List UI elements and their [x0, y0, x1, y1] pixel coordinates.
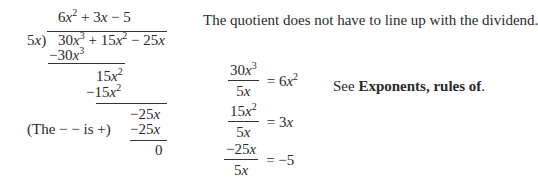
subtract-line-3 — [130, 140, 167, 141]
term: −15x — [86, 84, 116, 100]
exponent: 3 — [80, 30, 85, 41]
equals-result: = 3x — [267, 114, 293, 131]
exponent: 2 — [118, 66, 123, 77]
term: 30x — [230, 62, 252, 78]
numerator: 30x3 — [228, 63, 259, 81]
dividend-term: 30x — [58, 32, 80, 48]
equals-result: = 6x2 — [267, 73, 298, 90]
reference-suffix: . — [481, 78, 485, 94]
remainder-step-2: −25x — [130, 107, 160, 122]
exponent: 3 — [79, 45, 84, 56]
term: 15x — [96, 68, 118, 84]
denominator: 5x — [236, 122, 250, 140]
denominator: 5x — [236, 81, 250, 99]
quotient-term: 6x — [58, 9, 72, 25]
subtract-step-1: −30x3 — [49, 48, 84, 63]
fraction-row-3: −25x 5x = −5 — [224, 142, 294, 178]
numerator: 15x2 — [228, 104, 259, 122]
result: 6x — [279, 73, 293, 89]
fraction: 30x3 5x — [228, 63, 259, 99]
reference-link[interactable]: Exponents, rules of — [358, 78, 481, 94]
term: 15x — [230, 103, 252, 119]
final-remainder: 0 — [155, 143, 163, 158]
fraction-row-1: 30x3 5x = 6x2 — [228, 63, 298, 99]
dividend-term: − 25x — [127, 32, 165, 48]
reference-prefix: See — [333, 78, 358, 94]
quotient: 6x2 + 3x − 5 — [58, 10, 131, 25]
term: −30x — [49, 47, 79, 63]
result: 3x — [279, 114, 293, 130]
subtract-line-1 — [48, 63, 125, 64]
subtract-line-2 — [96, 103, 167, 104]
exponent: 2 — [116, 82, 121, 93]
fraction-row-2: 15x2 5x = 3x — [228, 104, 293, 140]
dividend-term: + 15x — [85, 32, 123, 48]
subtract-step-3: −25x — [130, 122, 160, 137]
divisor: 5x) — [27, 33, 46, 48]
fraction: −25x 5x — [224, 142, 258, 178]
denominator: 5x — [234, 160, 248, 178]
exponent: 2 — [252, 101, 257, 112]
fraction: 15x2 5x — [228, 104, 259, 140]
sign-note: (The − − is +) — [27, 122, 111, 137]
exponent: 2 — [72, 7, 77, 18]
result: −5 — [278, 152, 294, 168]
exponent: 2 — [122, 30, 127, 41]
dividend: 30x3 + 15x2 − 25x — [58, 33, 165, 48]
numerator: −25x — [224, 142, 258, 160]
exponent: 2 — [293, 71, 298, 82]
subtract-step-2: −15x2 — [86, 85, 121, 100]
equals-result: = −5 — [266, 152, 294, 169]
quotient-rest: + 3x − 5 — [77, 9, 131, 25]
cross-reference: See Exponents, rules of. — [333, 79, 485, 94]
exponent: 3 — [252, 60, 257, 71]
side-note: The quotient does not have to line up wi… — [203, 13, 538, 28]
